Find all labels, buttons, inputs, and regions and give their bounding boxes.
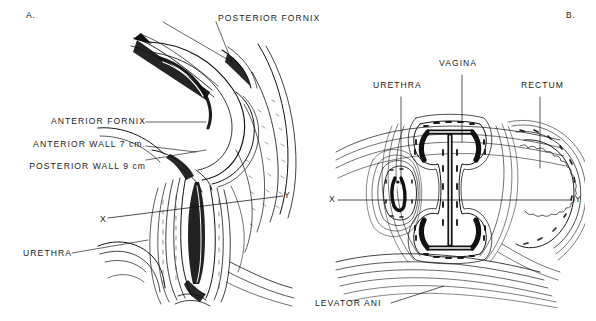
leader-urethra-a (72, 240, 148, 253)
label-levator-ani: LEVATOR ANI (315, 299, 381, 308)
axis-mark-x-b: X (329, 194, 335, 204)
axis-mark-y-a: Y (284, 190, 290, 200)
label-anterior-fornix: ANTERIOR FORNIX (0, 117, 146, 126)
panel-marker-a: A. (26, 10, 35, 20)
leader-levator-ani (391, 286, 444, 303)
label-urethra-b: URETHRA (373, 81, 422, 90)
label-vagina: VAGINA (439, 59, 477, 68)
label-anterior-wall: ANTERIOR WALL 7 cm. (0, 140, 146, 149)
axis-mark-x-a: X (100, 214, 106, 224)
label-posterior-fornix: POSTERIOR FORNIX (218, 14, 320, 23)
label-posterior-wall: POSTERIOR WALL 9 cm (0, 162, 146, 171)
leader-anterior-wall (146, 146, 196, 152)
label-urethra-a: URETHRA (0, 249, 72, 258)
axis-mark-y-b: Y (575, 194, 581, 204)
anatomical-figure: A. B. POSTERIOR FORNIX ANTERIOR FORNIX A… (0, 0, 596, 321)
leader-posterior-fornix-2 (216, 22, 232, 62)
panel-marker-b: B. (566, 10, 575, 20)
label-rectum: RECTUM (521, 81, 564, 90)
